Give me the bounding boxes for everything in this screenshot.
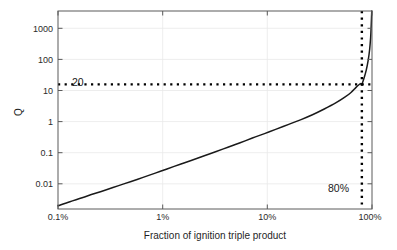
y-tick-label-1000: 1000 (33, 24, 53, 34)
x-tick-label-100pct: 100% (358, 212, 381, 222)
y-tick-label-100: 100 (38, 55, 53, 65)
y-tick-label-1: 1 (48, 117, 53, 127)
annotation-fraction-threshold: 80% (328, 182, 349, 194)
x-tick-label-10pct: 10% (258, 212, 276, 222)
x-tick-label-0p1pct: 0.1% (48, 212, 69, 222)
y-tick-label-0p1: 0.1 (40, 148, 53, 158)
log-log-plot: 1000 100 10 1 0.1 0.01 0.1% 1% 10% 100% … (0, 0, 397, 250)
annotation-q-threshold: 20 (72, 76, 84, 88)
y-tick-label-10: 10 (43, 86, 53, 96)
y-axis-title: Q (13, 108, 24, 116)
y-tick-label-0p01: 0.01 (35, 179, 53, 189)
x-axis-title: Fraction of ignition triple product (144, 230, 287, 241)
plot-background (58, 11, 372, 209)
figure-container: 1000 100 10 1 0.1 0.01 0.1% 1% 10% 100% … (0, 0, 397, 250)
x-tick-label-1pct: 1% (156, 212, 169, 222)
